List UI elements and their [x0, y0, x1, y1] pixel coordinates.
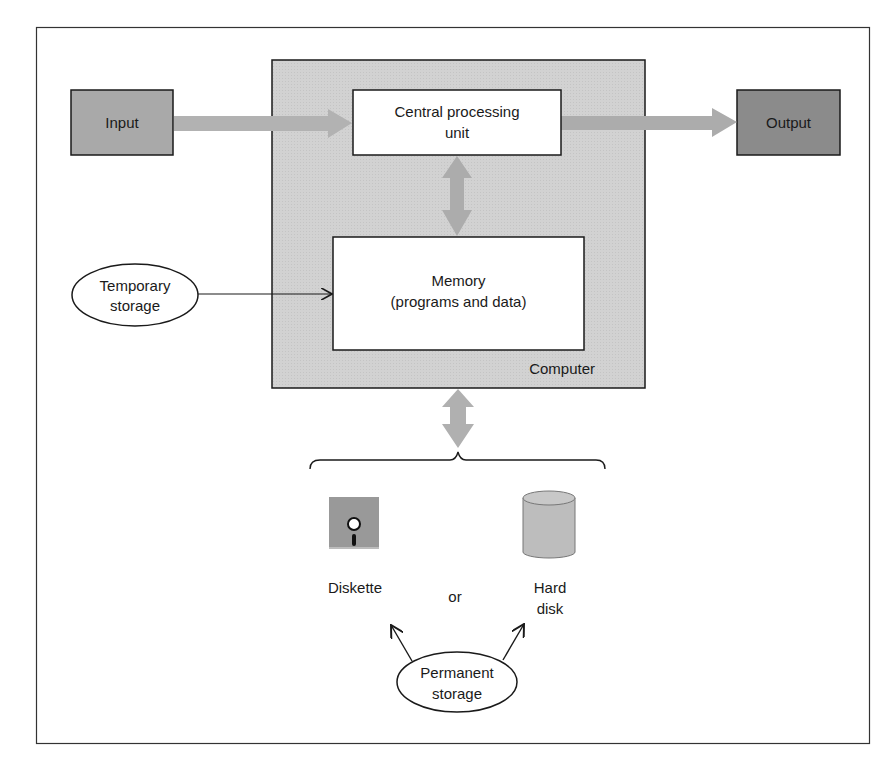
permanent-storage-line1: Permanent: [397, 663, 517, 682]
cpu-label-line1: Central processing: [353, 102, 561, 121]
permanent-storage-ellipse: [397, 652, 517, 712]
or-label: or: [435, 587, 475, 606]
temporary-storage-line1: Temporary: [72, 276, 198, 295]
diskette-icon: [329, 497, 379, 549]
permanent-storage-line2: storage: [397, 684, 517, 703]
cpu-label-line2: unit: [353, 123, 561, 142]
memory-label-line2: (programs and data): [333, 292, 584, 311]
hard-disk-label-line2: disk: [520, 599, 580, 618]
temporary-storage-line2: storage: [72, 296, 198, 315]
input-label: Input: [71, 113, 173, 132]
memory-label-line1: Memory: [333, 271, 584, 290]
computer-label: Computer: [490, 359, 595, 378]
hard-disk-icon: [523, 491, 575, 558]
hard-disk-label-line1: Hard: [520, 578, 580, 597]
temporary-storage-ellipse: [72, 264, 198, 326]
output-label: Output: [737, 113, 840, 132]
diskette-label: Diskette: [315, 578, 395, 597]
